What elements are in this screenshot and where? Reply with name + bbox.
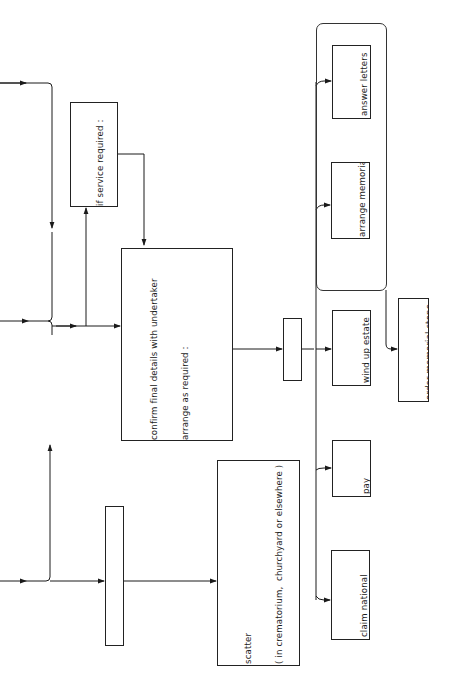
node-claim-ni-benefits: claim national insurance benefits — [331, 550, 370, 640]
confirm-line — [211, 274, 221, 440]
claim-ni-line: claim national — [359, 555, 369, 637]
node-wind-up-estate: wind up estate of deceased — [332, 310, 371, 386]
node-confirm-details: confirm final details with undertaker ar… — [121, 248, 233, 441]
ashes-option-line: ( in crematorium, churchyard or elsewher… — [274, 465, 284, 664]
node-service-line: if service required : — [95, 114, 105, 206]
node-pay-undertaker: pay undertaker — [332, 440, 371, 497]
confirm-line: arrange as required : — [180, 274, 190, 440]
node-ashes-options: scatter ( in crematorium, churchyard or … — [217, 460, 300, 666]
ashes-option-line: scatter — [243, 465, 253, 664]
node-service: if service required : arrange with clerg… — [70, 102, 118, 207]
node-after-funeral: after funeral — [283, 318, 302, 381]
flowchart: if service required : arrange with clerg… — [0, 0, 461, 692]
node-answer-letters: answer letters — [332, 45, 371, 119]
node-ashes-decision: decide about disposal of ashes — [105, 506, 124, 646]
confirm-line: confirm final details with undertaker — [149, 274, 159, 440]
answer-letters-line: answer letters — [359, 52, 369, 116]
memorial-service-line: arrange memorial — [357, 162, 367, 237]
pay-undertaker-line: pay — [361, 445, 371, 494]
memorial-stone-line: order memorial stone — [424, 304, 429, 400]
wind-up-line: wind up estate — [361, 317, 371, 383]
node-memorial-service: arrange memorial service if required — [331, 162, 370, 239]
node-memorial-stone: order memorial stone if required — [398, 298, 429, 402]
